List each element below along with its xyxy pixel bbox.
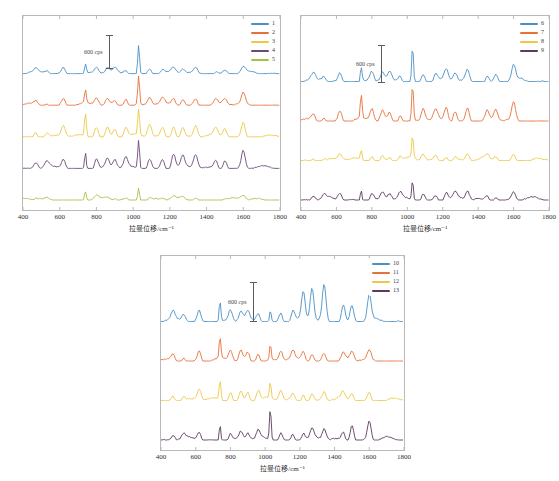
spectra-canvas-1 [23, 16, 280, 210]
xtick-1200: 1200 [436, 213, 450, 221]
plot-frame-2 [300, 15, 550, 211]
legend-label-1: 1 [272, 20, 275, 27]
legend-swatch-8 [520, 41, 538, 43]
legend-swatch-9 [520, 50, 538, 52]
spectrum-trace-7 [301, 90, 549, 122]
scalebar-panel-3: 600 cps [228, 282, 257, 322]
legend-item-9[interactable]: 9 [520, 47, 544, 54]
legend-swatch-12 [372, 281, 390, 283]
legend-label-12: 12 [393, 278, 399, 285]
xtick-1600: 1600 [507, 213, 521, 221]
spectrum-trace-9 [301, 183, 549, 200]
scalebar-glyph-2 [378, 45, 385, 83]
spectrum-trace-10 [161, 285, 403, 322]
xtick-1400: 1400 [200, 213, 214, 221]
legend-swatch-11 [372, 272, 390, 274]
legend-item-5[interactable]: 5 [251, 56, 275, 63]
spectrum-trace-11 [161, 339, 403, 361]
xtick-1000: 1000 [258, 453, 272, 461]
xtick-600: 600 [331, 213, 342, 221]
legend-swatch-5 [251, 59, 269, 61]
xtick-1800: 1800 [397, 453, 411, 461]
legend-item-2[interactable]: 2 [251, 29, 275, 36]
xtick-800: 800 [225, 453, 236, 461]
xaxis-title-1: 拉曼位移/cm⁻¹ [22, 223, 281, 233]
xtick-1200: 1200 [293, 453, 307, 461]
legend-label-10: 10 [393, 260, 399, 267]
spectrum-trace-6 [301, 51, 549, 81]
scalebar-glyph-1 [106, 35, 113, 69]
legend-item-6[interactable]: 6 [520, 20, 544, 27]
xtick-600: 600 [54, 213, 65, 221]
xtick-400: 400 [18, 213, 29, 221]
xtick-1600: 1600 [236, 213, 250, 221]
xtick-800: 800 [91, 213, 102, 221]
legend-swatch-4 [251, 50, 269, 52]
xtick-800: 800 [367, 213, 378, 221]
xtick-1800: 1800 [542, 213, 556, 221]
legend-swatch-1 [251, 23, 269, 25]
spectrum-trace-12 [161, 382, 403, 401]
legend-label-7: 7 [541, 29, 544, 36]
legend-label-6: 6 [541, 20, 544, 27]
spectrum-trace-2 [23, 76, 279, 105]
legend-label-4: 4 [272, 47, 275, 54]
xaxis-title-2: 拉曼位移/cm⁻¹ [300, 223, 550, 233]
xtick-1800: 1800 [273, 213, 287, 221]
scalebar-glyph-3 [250, 282, 257, 322]
scalebar-label-3: 600 cps [228, 299, 247, 305]
xtick-1000: 1000 [400, 213, 414, 221]
legend-item-4[interactable]: 4 [251, 47, 275, 54]
xtick-600: 600 [190, 453, 201, 461]
legend-swatch-7 [520, 32, 538, 34]
legend-panel-1: 12345 [248, 18, 278, 65]
xtick-400: 400 [296, 213, 307, 221]
legend-item-13[interactable]: 13 [372, 287, 399, 294]
legend-item-8[interactable]: 8 [520, 38, 544, 45]
xaxis-title-3: 拉曼位移/cm⁻¹ [160, 463, 405, 473]
xtick-1400: 1400 [471, 213, 485, 221]
spectrum-trace-13 [161, 412, 403, 440]
spectra-panel-3: 10111213 600 cps 40060080010001200140016… [160, 255, 405, 471]
plot-frame-1 [22, 15, 281, 211]
legend-swatch-13 [372, 290, 390, 292]
legend-item-11[interactable]: 11 [372, 269, 399, 276]
legend-swatch-2 [251, 32, 269, 34]
spectrum-trace-1 [23, 46, 279, 74]
legend-item-7[interactable]: 7 [520, 29, 544, 36]
legend-panel-2: 6789 [517, 18, 547, 56]
legend-item-10[interactable]: 10 [372, 260, 399, 267]
scalebar-panel-2: 600 cps [356, 45, 385, 83]
xtick-1400: 1400 [328, 453, 342, 461]
spectrum-trace-8 [301, 138, 549, 161]
xtick-400: 400 [156, 453, 167, 461]
scalebar-label-2: 600 cps [356, 61, 375, 67]
xtick-1600: 1600 [362, 453, 376, 461]
spectra-canvas-3 [161, 256, 404, 450]
legend-label-3: 3 [272, 38, 275, 45]
spectrum-trace-3 [23, 109, 279, 137]
scalebar-label-1: 600 cps [84, 49, 103, 55]
legend-label-11: 11 [393, 269, 399, 276]
spectra-canvas-2 [301, 16, 549, 210]
legend-panel-3: 10111213 [369, 258, 402, 296]
legend-item-3[interactable]: 3 [251, 38, 275, 45]
legend-swatch-3 [251, 41, 269, 43]
scalebar-panel-1: 600 cps [84, 35, 113, 69]
spectra-panel-1: 12345 600 cps 40060080010001200140016001… [22, 15, 281, 231]
legend-swatch-6 [520, 23, 538, 25]
legend-label-13: 13 [393, 287, 399, 294]
legend-swatch-10 [372, 263, 390, 265]
legend-label-9: 9 [541, 47, 544, 54]
legend-label-8: 8 [541, 38, 544, 45]
legend-item-12[interactable]: 12 [372, 278, 399, 285]
legend-label-5: 5 [272, 56, 275, 63]
spectrum-trace-4 [23, 140, 279, 168]
legend-item-1[interactable]: 1 [251, 20, 275, 27]
spectra-panel-2: 6789 600 cps 400600800100012001400160018… [300, 15, 550, 231]
spectrum-trace-5 [23, 188, 279, 200]
legend-label-2: 2 [272, 29, 275, 36]
xtick-1200: 1200 [163, 213, 177, 221]
xtick-1000: 1000 [126, 213, 140, 221]
